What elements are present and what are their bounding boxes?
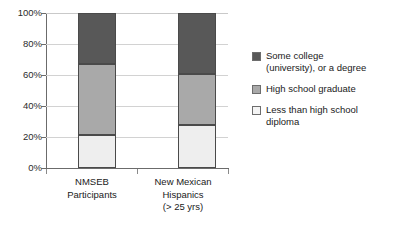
bar-new-mexican-hispanics: [178, 13, 216, 168]
x-category-label-hispanics-line2: Hispanics: [128, 189, 238, 202]
segment-high-school-graduate-bar1: [78, 64, 116, 135]
legend-item-high-school-graduate: High school graduate: [252, 83, 393, 95]
x-tick-mark-right: [228, 169, 229, 174]
x-category-label-hispanics: New Mexican Hispanics (> 25 yrs): [128, 176, 238, 214]
legend-label-some-college: Some college (university), or a degree: [266, 50, 366, 74]
segment-less-than-high-school-bar1: [78, 135, 116, 168]
x-category-label-hispanics-line1: New Mexican: [128, 176, 238, 189]
segment-some-college-bar2: [178, 13, 216, 74]
legend-item-less-than-high-school: Less than high school diploma: [252, 104, 393, 128]
bar-nmseb-participants: [78, 13, 116, 168]
x-category-label-hispanics-line3: (> 25 yrs): [128, 201, 238, 214]
legend-label-some-college-line2: (university), or a degree: [266, 62, 366, 74]
y-tick-label-80: 80%: [4, 39, 42, 49]
y-tick-label-0: 0%: [4, 163, 42, 173]
y-tick-label-20: 20%: [4, 132, 42, 142]
legend-item-some-college: Some college (university), or a degree: [252, 50, 393, 74]
plot-area: [46, 13, 228, 168]
legend-label-high-school-graduate-line1: High school graduate: [266, 83, 356, 95]
legend-swatch-high-school-graduate-icon: [252, 85, 261, 94]
chart-legend: Some college (university), or a degree H…: [252, 50, 393, 137]
segment-some-college-bar1: [78, 13, 116, 64]
legend-label-some-college-line1: Some college: [266, 50, 366, 62]
legend-label-less-than-high-school-line1: Less than high school: [266, 104, 358, 116]
legend-label-less-than-high-school: Less than high school diploma: [266, 104, 358, 128]
y-tick-label-40: 40%: [4, 101, 42, 111]
legend-swatch-some-college-icon: [252, 52, 261, 61]
stacked-bar-chart: 100% 80% 60% 40% 20% 0%: [0, 0, 393, 226]
y-tick-label-100: 100%: [4, 8, 42, 18]
x-tick-mark-middle: [137, 169, 138, 174]
legend-label-less-than-high-school-line2: diploma: [266, 116, 358, 128]
y-tick-label-60: 60%: [4, 70, 42, 80]
legend-swatch-less-than-high-school-icon: [252, 106, 261, 115]
y-axis-tick-labels: 100% 80% 60% 40% 20% 0%: [0, 0, 42, 226]
x-tick-mark-left: [46, 169, 47, 174]
legend-label-high-school-graduate: High school graduate: [266, 83, 356, 95]
segment-high-school-graduate-bar2: [178, 74, 216, 125]
segment-less-than-high-school-bar2: [178, 125, 216, 168]
